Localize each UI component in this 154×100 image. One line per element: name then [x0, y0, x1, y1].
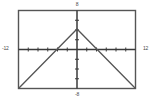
y-max-label: 8: [76, 2, 79, 7]
graphing-calculator-screen: 8 -8 -12 12: [0, 0, 154, 100]
plot-canvas: [0, 0, 154, 100]
y-min-label: -8: [75, 92, 79, 97]
x-max-label: 12: [143, 46, 148, 51]
x-min-label: -12: [2, 46, 9, 51]
